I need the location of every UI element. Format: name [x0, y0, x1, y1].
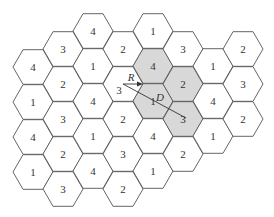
cell-label: 1: [210, 60, 216, 72]
cell-label: 3: [60, 43, 66, 55]
cell-label: 1: [30, 96, 36, 108]
cell-label: 3: [240, 78, 246, 90]
cell-label: 4: [90, 95, 96, 107]
cell-label: 2: [120, 183, 126, 195]
cell-label: 1: [150, 25, 156, 37]
cell-label: 1: [30, 166, 36, 178]
distance-label: D: [155, 91, 164, 103]
cell-label: 4: [150, 60, 156, 72]
cell-label: 2: [180, 78, 186, 90]
cell-label: 3: [180, 113, 186, 125]
hex-grid: 4141323234141423232141413232141232 R D: [0, 0, 274, 217]
cell-group: 4141323234141423232141413232141232: [13, 14, 263, 207]
cell-label: 4: [90, 25, 96, 37]
cell-label: 2: [180, 148, 186, 160]
cell-label: 3: [60, 183, 66, 195]
radius-label: R: [127, 71, 135, 83]
hex-reuse-diagram: 4141323234141423232141413232141232 R D: [0, 0, 274, 217]
cell-label: 3: [120, 148, 126, 160]
cell-label: 2: [120, 43, 126, 55]
cell-label: 4: [30, 61, 36, 73]
cell-label: 2: [60, 148, 66, 160]
cell-label: 3: [180, 43, 186, 55]
cell-label: 2: [60, 78, 66, 90]
cell-label: 2: [240, 43, 246, 55]
cell-label: 4: [150, 130, 156, 142]
cell-label: 4: [30, 131, 36, 143]
cell-label: 3: [60, 113, 66, 125]
cell-label: 4: [210, 95, 216, 107]
cell-label: 3: [116, 84, 122, 96]
cell-label: 1: [90, 60, 96, 72]
cell-label: 1: [90, 130, 96, 142]
cell-label: 2: [240, 113, 246, 125]
cell-label: 1: [210, 130, 216, 142]
cell-label: 4: [90, 165, 96, 177]
cell-label: 1: [150, 165, 156, 177]
cell-label: 2: [120, 113, 126, 125]
